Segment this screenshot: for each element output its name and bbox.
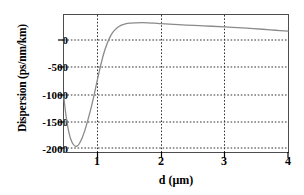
dispersion-chart-figure: Dispersion (ps/nm/km) 0 -500 -1000 -1500…	[0, 0, 304, 195]
plot-canvas	[0, 0, 304, 195]
vertical-gridlines	[98, 15, 225, 152]
